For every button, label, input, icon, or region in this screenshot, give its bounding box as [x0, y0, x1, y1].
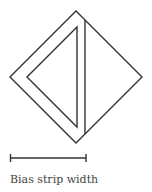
outer-diamond	[10, 11, 142, 143]
caption-bias-strip-width: Bias strip width	[10, 173, 98, 186]
scale-bar	[11, 154, 87, 162]
bias-strip-diagram	[0, 0, 152, 192]
inner-triangle	[27, 27, 77, 127]
